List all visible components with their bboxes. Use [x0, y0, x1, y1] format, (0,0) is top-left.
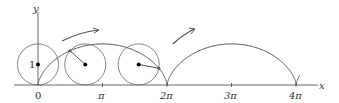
- radius-line: [70, 51, 85, 65]
- center-dot: [83, 62, 87, 66]
- x-axis-label: x: [319, 80, 325, 91]
- x-tick-4pi: 4π: [288, 90, 302, 101]
- y-tick-1: 1: [29, 59, 35, 70]
- center-dot: [36, 62, 40, 66]
- tracing-point: [68, 49, 71, 52]
- x-tick-pi: π: [97, 90, 105, 101]
- x-tick-3pi: 3π: [224, 90, 237, 101]
- x-tick-2pi: 2π: [159, 90, 173, 101]
- cycloid-curve: [38, 44, 300, 85]
- cycloid-diagram: y x 1 0 π 2π 3π 4π: [0, 0, 339, 103]
- motion-arrow-1: [62, 30, 98, 41]
- y-axis-label: y: [32, 3, 39, 14]
- x-tick-0: 0: [35, 90, 41, 101]
- motion-arrow-2: [173, 29, 194, 44]
- tracing-point: [157, 67, 160, 70]
- center-dot: [137, 62, 141, 66]
- rolling-circles: [17, 44, 160, 85]
